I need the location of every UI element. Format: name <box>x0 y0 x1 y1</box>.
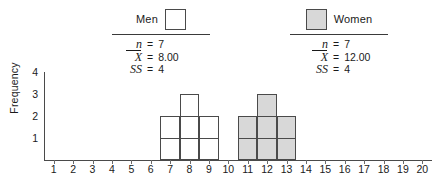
legend-women-label: Women <box>334 13 373 25</box>
x-tick-label: 17 <box>358 164 370 175</box>
x-tick-label: 1 <box>51 164 57 175</box>
x-tick-label: 14 <box>300 164 312 175</box>
x-tick-label: 4 <box>109 164 115 175</box>
stat-value-n: 7 <box>158 38 164 51</box>
bar-men-8 <box>180 94 199 160</box>
legend-women-swatch-icon <box>306 9 327 30</box>
x-tick-label: 5 <box>128 164 134 175</box>
x-tick-label: 6 <box>148 164 154 175</box>
x-tick-label: 12 <box>261 164 273 175</box>
bar-men-9 <box>199 116 218 160</box>
stat-symbol-xbar: X <box>126 51 142 64</box>
legend-women: Women n = 7 X = 12.00 SS = 4 <box>290 6 388 76</box>
legend-men-swatch-icon <box>165 9 186 30</box>
legend-men-header: Men <box>112 6 210 32</box>
legend-men-stat-mean: X = 8.00 <box>126 51 210 64</box>
x-tick-label: 3 <box>90 164 96 175</box>
stat-value-n: 7 <box>344 38 350 51</box>
stat-equals: = <box>147 38 153 51</box>
x-tick-label: 9 <box>206 164 212 175</box>
plot-area: 1234 1234567891011121314151617181920 <box>44 72 432 160</box>
y-axis-title: Frequency <box>8 48 20 128</box>
bar-unit-divider <box>181 116 198 117</box>
stat-symbol-xbar: X <box>312 51 328 64</box>
x-tick-label: 18 <box>378 164 390 175</box>
x-tick-label: 8 <box>187 164 193 175</box>
x-tick-label: 20 <box>416 164 428 175</box>
x-tick-label: 11 <box>242 164 253 175</box>
stat-equals: = <box>147 51 153 64</box>
y-axis-line <box>44 72 45 160</box>
stat-equals: = <box>333 38 339 51</box>
x-tick-label: 2 <box>70 164 76 175</box>
bar-unit-divider <box>200 138 217 139</box>
y-tick-label: 3 <box>32 89 38 100</box>
y-tick-label: 2 <box>32 111 38 122</box>
bar-unit-divider <box>278 138 295 139</box>
legend-men: Men n = 7 X = 8.00 SS = 4 <box>112 6 210 76</box>
legend-men-label: Men <box>136 13 158 25</box>
bar-unit-divider <box>258 138 275 139</box>
legend-men-stats: n = 7 X = 8.00 SS = 4 <box>112 35 210 76</box>
bar-unit-divider <box>258 116 275 117</box>
legend-women-stats: n = 7 X = 12.00 SS = 4 <box>290 35 388 76</box>
bar-women-11 <box>238 116 257 160</box>
bar-unit-divider <box>181 138 198 139</box>
x-tick-label: 15 <box>319 164 331 175</box>
bar-women-13 <box>277 116 296 160</box>
bar-women-12 <box>257 94 276 160</box>
frequency-histogram-figure: Men n = 7 X = 8.00 SS = 4 Women <box>0 0 441 193</box>
x-tick-label: 19 <box>397 164 409 175</box>
x-tick-label: 10 <box>222 164 234 175</box>
bar-unit-divider <box>239 138 256 139</box>
legend-women-stat-mean: X = 12.00 <box>312 51 388 64</box>
x-tick-label: 7 <box>167 164 173 175</box>
y-tick-label: 4 <box>32 67 38 78</box>
bar-men-7 <box>160 116 179 160</box>
stat-equals: = <box>333 51 339 64</box>
y-tick-label: 1 <box>32 133 38 144</box>
stat-value-mean: 8.00 <box>158 51 178 64</box>
stat-value-mean: 12.00 <box>344 51 370 64</box>
x-tick-label: 13 <box>281 164 293 175</box>
legend-women-header: Women <box>290 6 388 32</box>
bar-unit-divider <box>161 138 178 139</box>
x-tick-label: 16 <box>339 164 351 175</box>
x-axis-line <box>44 160 432 161</box>
